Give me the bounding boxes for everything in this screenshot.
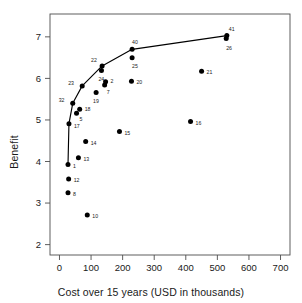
data-point-label-22: 22 <box>91 57 97 63</box>
data-point-13[interactable] <box>76 155 81 160</box>
data-point-label-10: 10 <box>92 213 98 219</box>
data-point-label-19: 19 <box>93 98 99 104</box>
x-tick-label: 700 <box>273 262 289 273</box>
data-point-label-20: 20 <box>136 79 142 85</box>
data-point-25[interactable] <box>130 55 135 60</box>
data-point-label-32: 32 <box>59 97 65 103</box>
data-point-19[interactable] <box>94 90 99 95</box>
x-tick-label: 600 <box>241 262 257 273</box>
data-point-20[interactable] <box>129 79 134 84</box>
data-point-label-26: 26 <box>226 45 232 51</box>
x-tick-label: 200 <box>115 262 131 273</box>
data-point-18[interactable] <box>77 107 82 112</box>
x-axis-title: Cost over 15 years (USD in thousands) <box>0 286 302 298</box>
data-point-16[interactable] <box>188 119 193 124</box>
data-point-label-16: 16 <box>196 120 202 126</box>
data-point-label-15: 15 <box>124 130 130 136</box>
data-point-21[interactable] <box>199 69 204 74</box>
data-point-label-12: 12 <box>74 177 80 183</box>
y-tick-label: 3 <box>36 197 41 208</box>
data-point-22[interactable] <box>100 63 105 68</box>
data-point-17[interactable] <box>66 121 71 126</box>
y-tick-label: 7 <box>36 31 41 42</box>
data-point-1[interactable] <box>66 162 71 167</box>
data-point-23[interactable] <box>80 83 85 88</box>
data-point-label-1: 1 <box>73 163 76 169</box>
data-point-label-23: 23 <box>68 80 74 86</box>
y-tick-label: 2 <box>36 239 41 250</box>
data-point-label-21: 21 <box>207 69 213 75</box>
y-axis-title: Benefit <box>8 112 20 192</box>
data-point-label-13: 13 <box>83 156 89 162</box>
data-point-label-41: 41 <box>229 26 235 32</box>
x-tick-label: 100 <box>83 262 99 273</box>
data-point-label-2: 2 <box>111 78 114 84</box>
y-tick-label: 4 <box>36 156 41 167</box>
data-point-32[interactable] <box>70 101 75 106</box>
data-point-15[interactable] <box>117 129 122 134</box>
data-point-5[interactable] <box>74 111 79 116</box>
scatter-chart: 0100200300400500600700234567112810131415… <box>0 0 302 303</box>
data-point-label-17: 17 <box>74 123 80 129</box>
data-point-label-14: 14 <box>91 140 97 146</box>
data-point-24[interactable] <box>99 68 104 73</box>
data-point-label-25: 25 <box>132 63 138 69</box>
data-point-10[interactable] <box>85 213 90 218</box>
x-tick-label: 300 <box>146 262 162 273</box>
data-point-label-5: 5 <box>80 116 83 122</box>
data-point-label-8: 8 <box>73 191 76 197</box>
x-tick-label: 400 <box>178 262 194 273</box>
plot-area: 0100200300400500600700234567112810131415… <box>0 0 302 303</box>
data-point-14[interactable] <box>83 139 88 144</box>
data-point-label-24: 24 <box>98 76 104 82</box>
data-point-40[interactable] <box>130 47 135 52</box>
data-point-label-18: 18 <box>85 106 91 112</box>
data-point-41[interactable] <box>224 33 229 38</box>
y-tick-label: 6 <box>36 73 41 84</box>
x-tick-label: 500 <box>209 262 225 273</box>
y-tick-label: 5 <box>36 114 41 125</box>
data-point-8[interactable] <box>66 190 71 195</box>
plot-frame <box>50 14 290 255</box>
data-point-12[interactable] <box>66 176 71 181</box>
data-point-label-40: 40 <box>132 39 138 45</box>
data-point-label-7: 7 <box>107 89 110 95</box>
x-tick-label: 0 <box>57 262 62 273</box>
